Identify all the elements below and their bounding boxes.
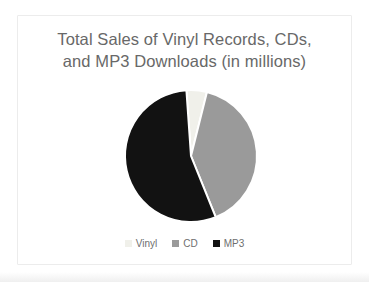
legend-label-cd: CD <box>183 238 197 249</box>
legend-swatch-mp3 <box>213 240 220 247</box>
pie-chart <box>121 86 261 226</box>
legend-swatch-vinyl <box>125 240 132 247</box>
legend-item-vinyl: Vinyl <box>125 238 158 249</box>
legend-item-cd: CD <box>172 238 197 249</box>
chart-title-line1: Total Sales of Vinyl Records, CDs, <box>18 29 351 51</box>
chart-legend: Vinyl CD MP3 <box>18 238 351 249</box>
chart-title-line2: and MP3 Downloads (in millions) <box>18 51 351 73</box>
legend-item-mp3: MP3 <box>213 238 245 249</box>
legend-label-vinyl: Vinyl <box>136 238 158 249</box>
photo-background: Total Sales of Vinyl Records, CDs, and M… <box>0 0 369 282</box>
legend-label-mp3: MP3 <box>224 238 245 249</box>
legend-swatch-cd <box>172 240 179 247</box>
chart-title: Total Sales of Vinyl Records, CDs, and M… <box>18 29 351 72</box>
slide-canvas: Total Sales of Vinyl Records, CDs, and M… <box>17 15 352 265</box>
pie-chart-svg <box>121 86 261 226</box>
